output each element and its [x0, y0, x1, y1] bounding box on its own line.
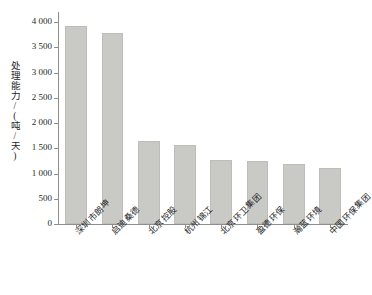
bar [210, 160, 232, 224]
y-axis-tick-label: 4 000 [6, 17, 52, 26]
y-axis-tick-label: 500 [6, 194, 52, 203]
y-axis-tick [54, 98, 58, 99]
y-axis-tick [54, 123, 58, 124]
y-axis-tick-label: 3 500 [6, 42, 52, 51]
y-axis-tick [54, 174, 58, 175]
bar [319, 168, 341, 224]
y-axis-tick [54, 47, 58, 48]
y-axis-tick [54, 199, 58, 200]
bar [283, 164, 305, 224]
y-axis-title: 处理能力/(吨/天) [4, 46, 24, 176]
y-axis-tick [54, 22, 58, 23]
bar [65, 26, 87, 224]
y-axis-tick [54, 73, 58, 74]
y-axis-line [58, 12, 59, 225]
y-axis-tick-label: 1 000 [6, 169, 52, 178]
bar [102, 33, 124, 224]
y-axis-tick-label: 0 [6, 219, 52, 228]
y-axis-tick-label: 3 000 [6, 68, 52, 77]
y-axis-tick-label: 2 500 [6, 93, 52, 102]
y-axis-tick-label: 1 500 [6, 143, 52, 152]
y-axis-tick [54, 224, 58, 225]
y-axis-tick [54, 148, 58, 149]
y-axis-tick-label: 2 000 [6, 118, 52, 127]
